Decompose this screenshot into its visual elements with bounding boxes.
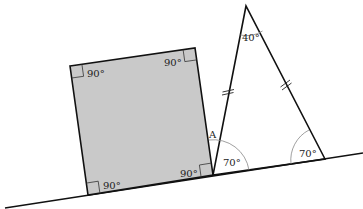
- angle-label-apex: 40°: [242, 32, 260, 43]
- angle-label-base-left: 70°: [223, 157, 241, 168]
- angle-label-square-bottom-right: 90°: [180, 168, 198, 179]
- geometry-diagram: 90° 90° 90° 90° 40° 70° 70° A: [0, 0, 363, 209]
- angle-label-square-bottom-left: 90°: [103, 180, 121, 191]
- angle-label-square-top-left: 90°: [87, 68, 105, 79]
- angle-label-square-top-right: 90°: [164, 57, 182, 68]
- point-label-a: A: [208, 129, 217, 140]
- angle-label-base-right: 70°: [299, 148, 317, 159]
